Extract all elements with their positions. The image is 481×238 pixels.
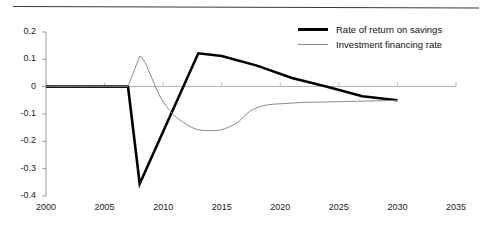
series-line-1 <box>46 53 397 183</box>
y-axis-tick-label: 0.1 <box>6 54 36 63</box>
y-axis-ticks <box>42 32 46 196</box>
legend-item-rate-of-return-on-savings: Rate of return on savings <box>296 22 476 37</box>
x-axis-tick-label: 2010 <box>143 203 183 212</box>
y-axis-tick-label: -0.4 <box>6 191 36 200</box>
y-axis-tick-label: -0.2 <box>6 136 36 145</box>
legend-item-investment-financing-rate: Investment financing rate <box>296 37 476 52</box>
y-axis-tick-label: 0.2 <box>6 27 36 36</box>
axis-group <box>46 32 456 196</box>
series-line-2 <box>46 56 397 131</box>
legend-item-label: Rate of return on savings <box>330 24 442 35</box>
chart-legend: Rate of return on savings Investment fin… <box>296 22 476 52</box>
x-axis-tick-label: 2015 <box>202 203 242 212</box>
x-axis-tick-label: 2025 <box>319 203 359 212</box>
legend-item-label: Investment financing rate <box>330 39 442 50</box>
chart-figure: 0.20.10-0.1-0.2-0.3-0.4 2000200520102015… <box>0 0 481 238</box>
x-axis-tick-label: 2035 <box>436 203 476 212</box>
x-axis-tick-label: 2020 <box>260 203 300 212</box>
x-axis-tick-label: 2005 <box>85 203 125 212</box>
legend-line-swatch-icon <box>296 40 330 50</box>
x-axis-tick-label: 2000 <box>26 203 66 212</box>
legend-line-swatch-icon <box>296 25 330 35</box>
y-axis-tick-label: -0.1 <box>6 109 36 118</box>
y-axis-tick-label: -0.3 <box>6 164 36 173</box>
data-series-group <box>46 53 397 183</box>
y-axis-tick-label: 0 <box>6 82 36 91</box>
x-axis-tick-label: 2030 <box>377 203 417 212</box>
